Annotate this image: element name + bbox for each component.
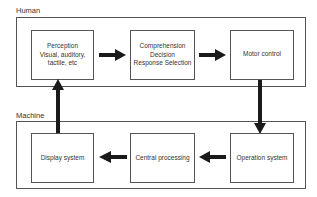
flow-arrows: [0, 0, 317, 197]
arrow-operation-to-central: [199, 151, 226, 163]
arrow-display-to-perception: [52, 79, 64, 133]
arrow-comprehension-to-motor: [199, 49, 226, 61]
arrow-perception-to-comprehension: [99, 49, 126, 61]
arrow-motor-to-operation: [254, 80, 266, 134]
arrow-central-to-display: [99, 151, 127, 163]
